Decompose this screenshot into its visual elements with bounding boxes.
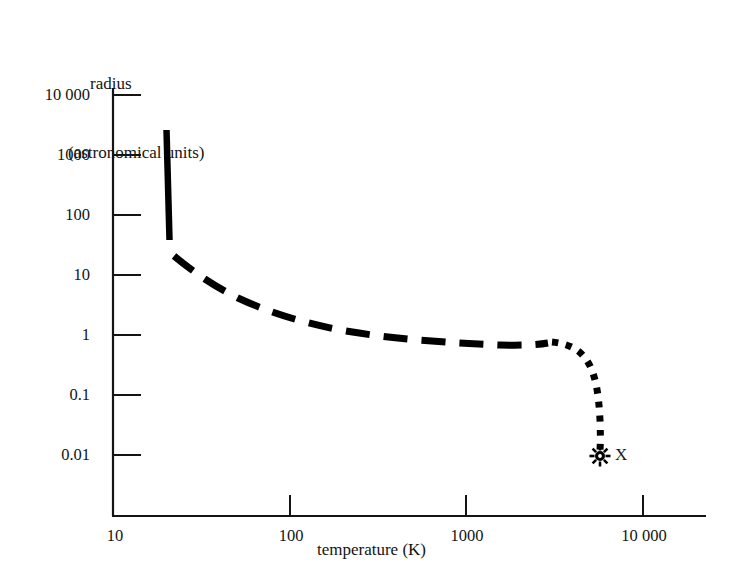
sun-symbol-icon	[590, 446, 611, 467]
series-pre-main-sequence-dashed	[174, 256, 548, 345]
curve-dotted-segment	[552, 342, 600, 450]
sun-symbol-center	[598, 454, 602, 458]
axis-spines	[112, 88, 706, 516]
figure-canvas: radius (astronomical units) temperature …	[0, 0, 743, 587]
y-axis-ticks	[113, 95, 141, 455]
series-protostar-collapse-solid	[167, 130, 170, 240]
series-contraction-to-main-sequence-dotted	[552, 342, 600, 450]
curve-dashed-segment	[174, 256, 548, 345]
curve-solid-segment	[167, 130, 170, 240]
x-axis-ticks	[290, 495, 643, 516]
